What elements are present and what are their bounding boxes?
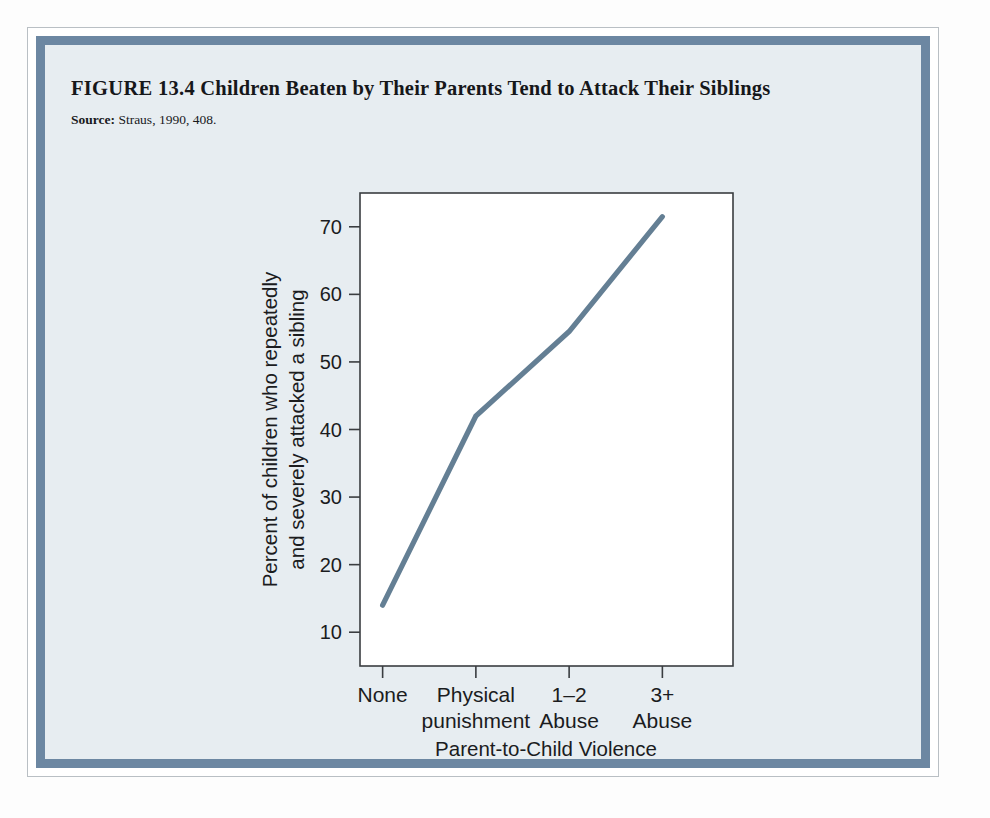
plot-frame (360, 193, 733, 666)
x-tick-label: 3+Abuse (633, 683, 693, 732)
x-axis-tick-labels: NonePhysicalpunishment1–2Abuse3+Abuse (358, 683, 693, 732)
y-tick-label: 50 (320, 351, 342, 373)
source-text: Straus, 1990, 408. (118, 112, 216, 127)
y-tick-label: 30 (320, 486, 342, 508)
x-tick-label: Physicalpunishment (422, 683, 531, 732)
figure-caption-block: FIGURE 13.4 Children Beaten by Their Par… (71, 73, 771, 128)
y-tick-label: 10 (320, 621, 342, 643)
y-axis-title-line: and severely attacked a sibling (285, 289, 308, 569)
y-tick-label: 20 (320, 554, 342, 576)
y-axis-ticks (349, 227, 360, 632)
source-label: Source: (71, 112, 115, 127)
y-tick-label: 60 (320, 283, 342, 305)
figure-border-band: FIGURE 13.4 Children Beaten by Their Par… (36, 36, 930, 768)
figure-title: FIGURE 13.4 Children Beaten by Their Par… (71, 73, 771, 103)
data-series-line (383, 217, 663, 606)
y-tick-label: 40 (320, 419, 342, 441)
line-chart: 10203040506070 NonePhysicalpunishment1–2… (45, 45, 939, 777)
figure-title-text: Children Beaten by Their Parents Tend to… (200, 77, 770, 99)
y-axis-title: Percent of children who repeatedlyand se… (258, 271, 308, 587)
figure-number: FIGURE 13.4 (71, 77, 195, 99)
scanned-page: FIGURE 13.4 Children Beaten by Their Par… (0, 0, 990, 818)
x-tick-label: None (358, 683, 408, 706)
y-tick-label: 70 (320, 216, 342, 238)
y-axis-title-line: Percent of children who repeatedly (258, 271, 281, 587)
chart-container: 10203040506070 NonePhysicalpunishment1–2… (45, 45, 939, 777)
y-axis-tick-labels: 10203040506070 (320, 216, 342, 643)
figure-inner-panel: FIGURE 13.4 Children Beaten by Their Par… (45, 45, 921, 759)
x-tick-label: 1–2Abuse (539, 683, 599, 732)
plot-background (360, 193, 733, 666)
figure-source: Source: Straus, 1990, 408. (71, 112, 771, 128)
x-axis-title: Parent-to-Child Violence (435, 737, 657, 760)
x-axis-ticks (383, 666, 663, 678)
